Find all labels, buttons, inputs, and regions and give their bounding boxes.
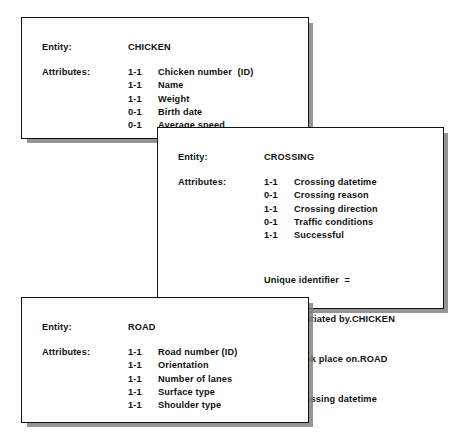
attributes-label: Attributes: — [42, 66, 128, 79]
attribute-name: Name — [158, 79, 253, 92]
entity-name-value: CHICKEN — [128, 41, 171, 54]
attribute-name: Weight — [158, 93, 253, 106]
attribute-cardinality: 1-1 — [128, 386, 158, 399]
attributes-block: Attributes: 1-1 Road number (ID) 1-1 Ori… — [42, 346, 237, 412]
attribute-cardinality: 0-1 — [128, 106, 158, 119]
attribute-cardinality: 1-1 — [264, 176, 294, 189]
entity-card-road[interactable]: Entity: ROAD Attributes: 1-1 Road number… — [21, 297, 309, 423]
attribute-cardinality: 1-1 — [128, 359, 158, 372]
attributes-row: Attributes: 1-1 Road number (ID) — [42, 346, 237, 359]
attribute-cardinality: 1-1 — [128, 373, 158, 386]
attributes-row: 1-1 Crossing direction — [178, 203, 378, 216]
attribute-name: Traffic conditions — [294, 216, 378, 229]
attributes-row: 1-1 Weight — [42, 93, 253, 106]
entity-label: Entity: — [42, 321, 128, 334]
attribute-cardinality: 1-1 — [128, 79, 158, 92]
attributes-row: 0-1 Crossing reason — [178, 189, 378, 202]
attributes-block: Attributes: 1-1 Crossing datetime 0-1 Cr… — [178, 176, 378, 242]
entity-card-body: Entity: CHICKEN Attributes: 1-1 Chicken … — [22, 18, 308, 138]
attribute-name: Crossing datetime — [294, 176, 378, 189]
attribute-name: Chicken number (ID) — [158, 66, 253, 79]
attributes-label: Attributes: — [178, 176, 264, 189]
attribute-cardinality: 0-1 — [264, 189, 294, 202]
entity-name-value: CROSSING — [264, 151, 314, 164]
entity-name-row: Entity: CROSSING — [178, 151, 314, 164]
entity-card-body: Entity: CROSSING Attributes: 1-1 Crossin… — [158, 128, 443, 308]
entity-name-value: ROAD — [128, 321, 156, 334]
attributes-row: 1-1 Name — [42, 79, 253, 92]
attribute-cardinality: 1-1 — [128, 93, 158, 106]
attributes-row: Attributes: 1-1 Chicken number (ID) — [42, 66, 253, 79]
attributes-row: 1-1 Shoulder type — [42, 399, 237, 412]
attribute-cardinality: 1-1 — [128, 66, 158, 79]
attributes-block: Attributes: 1-1 Chicken number (ID) 1-1 … — [42, 66, 253, 132]
entity-card-crossing[interactable]: Entity: CROSSING Attributes: 1-1 Crossin… — [157, 127, 444, 309]
entity-card-chicken[interactable]: Entity: CHICKEN Attributes: 1-1 Chicken … — [21, 17, 309, 139]
attribute-name: Birth date — [158, 106, 253, 119]
attribute-cardinality: 1-1 — [264, 203, 294, 216]
unique-identifier-heading: Unique identifier = — [264, 274, 395, 287]
attribute-name: Crossing reason — [294, 189, 378, 202]
attribute-name: Surface type — [158, 386, 237, 399]
entity-label: Entity: — [42, 41, 128, 54]
attribute-name: Shoulder type — [158, 399, 237, 412]
attributes-row: 0-1 Traffic conditions — [178, 216, 378, 229]
entity-name-row: Entity: CHICKEN — [42, 41, 171, 54]
attributes-row: Attributes: 1-1 Crossing datetime — [178, 176, 378, 189]
attributes-row: 1-1 Successful — [178, 229, 378, 242]
attributes-row: 1-1 Surface type — [42, 386, 237, 399]
attribute-cardinality: 1-1 — [264, 229, 294, 242]
attribute-name: Orientation — [158, 359, 237, 372]
diagram-canvas: Entity: CHICKEN Attributes: 1-1 Chicken … — [0, 0, 467, 440]
attribute-cardinality: 0-1 — [264, 216, 294, 229]
attribute-cardinality: 1-1 — [128, 399, 158, 412]
attribute-name: Successful — [294, 229, 378, 242]
attributes-row: 1-1 Orientation — [42, 359, 237, 372]
attribute-name: Crossing direction — [294, 203, 378, 216]
attribute-cardinality: 1-1 — [128, 346, 158, 359]
entity-name-row: Entity: ROAD — [42, 321, 156, 334]
entity-card-body: Entity: ROAD Attributes: 1-1 Road number… — [22, 298, 308, 422]
attribute-cardinality: 0-1 — [128, 119, 158, 132]
entity-label: Entity: — [178, 151, 264, 164]
attribute-name: Number of lanes — [158, 373, 237, 386]
attribute-name: Road number (ID) — [158, 346, 237, 359]
attributes-label: Attributes: — [42, 346, 128, 359]
attributes-row: 1-1 Number of lanes — [42, 373, 237, 386]
attributes-row: 0-1 Birth date — [42, 106, 253, 119]
